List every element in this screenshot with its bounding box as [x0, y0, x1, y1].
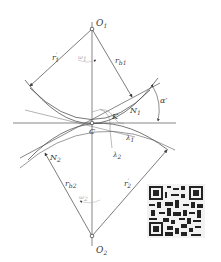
label-lambda2: λ2: [112, 151, 121, 160]
label-N2: N2: [49, 153, 61, 163]
center-O1: [90, 27, 94, 31]
label-r2p: r′2: [124, 177, 131, 189]
label-rb2: rb2: [65, 179, 77, 189]
omega1-arc: [78, 60, 96, 62]
point-C: [90, 121, 94, 125]
label-rb1: rb1: [115, 56, 127, 66]
involute-profile: [100, 109, 112, 148]
label-K: K: [111, 112, 119, 121]
label-O1: O1: [96, 18, 107, 29]
label-r1p: r′1: [52, 51, 59, 63]
qr-code-pattern: [147, 184, 205, 238]
qr-code: [147, 184, 205, 238]
common-tangent: [25, 110, 135, 137]
pitch-circle-2: [28, 123, 168, 160]
label-alpha: α′: [160, 96, 167, 105]
line-of-action: [20, 83, 160, 158]
label-O2: O2: [96, 245, 107, 256]
label-omega2: ω2: [79, 193, 88, 202]
center-O2: [90, 234, 94, 238]
label-N1: N1: [129, 106, 141, 116]
alpha-arc: [153, 87, 159, 121]
label-C: C: [89, 127, 95, 136]
label-lambda1: λ1: [125, 134, 134, 143]
base-circle-2: [20, 131, 175, 168]
